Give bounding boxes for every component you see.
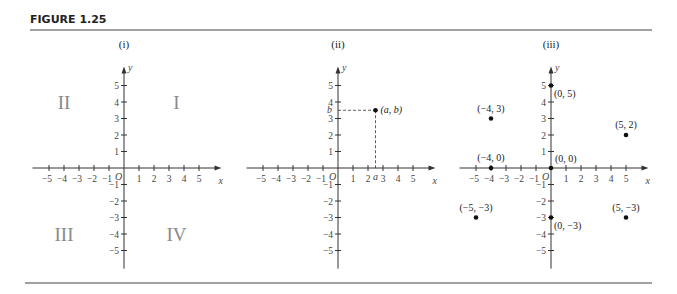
b-axis-label: b bbox=[327, 104, 332, 115]
data-point bbox=[489, 116, 494, 121]
x-tick-label: −2 bbox=[87, 174, 97, 184]
x-axis-label: x bbox=[432, 175, 438, 186]
y-tick-label: −3 bbox=[536, 213, 546, 223]
x-tick-label: −3 bbox=[499, 174, 509, 184]
quadrant-label-ii: II bbox=[58, 92, 71, 113]
point-label: (5, −3) bbox=[612, 202, 639, 214]
panel-title: (ii) bbox=[331, 38, 345, 51]
y-tick-label: 1 bbox=[328, 147, 333, 157]
x-tick-label: 2 bbox=[579, 174, 584, 184]
y-tick-label: −4 bbox=[536, 230, 546, 240]
y-tick-label: 2 bbox=[114, 131, 119, 141]
point-label: (5, 2) bbox=[615, 119, 637, 131]
y-tick-label: 1 bbox=[114, 147, 119, 157]
point-label: (0, 0) bbox=[555, 153, 577, 165]
y-tick-label: −1 bbox=[109, 180, 119, 190]
point-label: (−5, −3) bbox=[460, 202, 493, 214]
x-tick-label: −4 bbox=[271, 174, 281, 184]
figure-title: FIGURE 1.25 bbox=[30, 13, 107, 26]
x-tick-label: 4 bbox=[182, 174, 187, 184]
data-point bbox=[624, 215, 629, 220]
y-tick-label: −1 bbox=[536, 180, 546, 190]
x-tick-label: −5 bbox=[469, 174, 479, 184]
y-tick-label: 2 bbox=[541, 131, 546, 141]
point-label: (0, −3) bbox=[554, 220, 581, 232]
x-tick-label: 5 bbox=[411, 174, 416, 184]
data-point bbox=[549, 215, 554, 220]
x-tick-label: −4 bbox=[484, 174, 494, 184]
point-label: (−4, 3) bbox=[477, 103, 504, 115]
y-tick-label: −5 bbox=[109, 246, 119, 256]
x-tick-label: −3 bbox=[72, 174, 82, 184]
y-axis-label: y bbox=[341, 62, 347, 73]
data-point bbox=[549, 166, 554, 171]
x-tick-label: −2 bbox=[301, 174, 311, 184]
quadrant-label-iv: IV bbox=[166, 224, 186, 245]
y-tick-label: −5 bbox=[536, 246, 546, 256]
a-axis-label: a bbox=[373, 171, 378, 182]
data-point bbox=[624, 133, 629, 138]
panels: (i)yxO−5−4−3−2−112345−5−4−3−2−112345IIII… bbox=[33, 38, 651, 269]
panel-3: (iii)yxO−5−4−3−2−112345−5−4−3−2−112345(0… bbox=[460, 38, 651, 269]
y-tick-label: 5 bbox=[541, 81, 546, 91]
x-tick-label: 1 bbox=[137, 174, 142, 184]
point-label: (a, b) bbox=[381, 104, 403, 116]
x-axis-arrow-icon bbox=[215, 166, 222, 171]
x-tick-label: 3 bbox=[381, 174, 386, 184]
y-tick-label: −1 bbox=[323, 180, 333, 190]
x-tick-label: 4 bbox=[609, 174, 614, 184]
y-axis-label: y bbox=[127, 62, 133, 73]
point-label: (0, 5) bbox=[554, 88, 576, 100]
x-axis-arrow-icon bbox=[642, 166, 649, 171]
x-tick-label: 1 bbox=[564, 174, 569, 184]
data-point bbox=[474, 215, 479, 220]
y-tick-label: 4 bbox=[114, 98, 119, 108]
y-tick-label: 4 bbox=[541, 98, 546, 108]
x-tick-label: 1 bbox=[351, 174, 356, 184]
panel-title: (iii) bbox=[543, 38, 560, 51]
y-tick-label: −5 bbox=[323, 246, 333, 256]
y-axis-arrow-icon bbox=[122, 67, 127, 74]
panel-2: (ii)yxO−5−4−3−2−112345−5−4−3−2−112345ba(… bbox=[247, 38, 438, 269]
data-point bbox=[549, 83, 554, 88]
y-tick-label: 5 bbox=[114, 81, 119, 91]
x-tick-label: −2 bbox=[514, 174, 524, 184]
x-tick-label: 3 bbox=[594, 174, 599, 184]
y-tick-label: 3 bbox=[328, 114, 333, 124]
y-tick-label: −3 bbox=[323, 213, 333, 223]
y-tick-label: 3 bbox=[114, 114, 119, 124]
x-axis-label: x bbox=[645, 175, 651, 186]
data-point bbox=[489, 166, 494, 171]
x-tick-label: 3 bbox=[167, 174, 172, 184]
panel-title: (i) bbox=[119, 38, 130, 51]
quadrant-label-iii: III bbox=[55, 224, 74, 245]
x-tick-label: 2 bbox=[366, 174, 371, 184]
x-tick-label: 4 bbox=[396, 174, 401, 184]
x-axis-label: x bbox=[218, 175, 224, 186]
x-tick-label: 5 bbox=[197, 174, 202, 184]
x-axis-arrow-icon bbox=[429, 166, 436, 171]
point-label: (−4, 0) bbox=[477, 152, 504, 164]
y-tick-label: −4 bbox=[323, 230, 333, 240]
y-axis-arrow-icon bbox=[549, 67, 554, 74]
y-tick-label: 5 bbox=[328, 81, 333, 91]
y-tick-label: −3 bbox=[109, 213, 119, 223]
quadrant-label-i: I bbox=[173, 92, 179, 113]
y-tick-label: −2 bbox=[109, 197, 119, 207]
y-tick-label: −2 bbox=[323, 197, 333, 207]
y-tick-label: −4 bbox=[109, 230, 119, 240]
y-axis-label: y bbox=[554, 62, 560, 73]
x-tick-label: 5 bbox=[624, 174, 629, 184]
data-point bbox=[373, 108, 378, 113]
figure-canvas: FIGURE 1.25 (i)yxO−5−4−3−2−112345−5−4−3−… bbox=[0, 0, 677, 294]
y-tick-label: 1 bbox=[541, 147, 546, 157]
x-tick-label: −4 bbox=[57, 174, 67, 184]
x-tick-label: −5 bbox=[42, 174, 52, 184]
y-axis-arrow-icon bbox=[336, 67, 341, 74]
y-tick-label: −2 bbox=[536, 197, 546, 207]
x-tick-label: −5 bbox=[256, 174, 266, 184]
y-tick-label: 3 bbox=[541, 114, 546, 124]
x-tick-label: −3 bbox=[286, 174, 296, 184]
x-tick-label: 2 bbox=[152, 174, 157, 184]
y-tick-label: 2 bbox=[328, 131, 333, 141]
